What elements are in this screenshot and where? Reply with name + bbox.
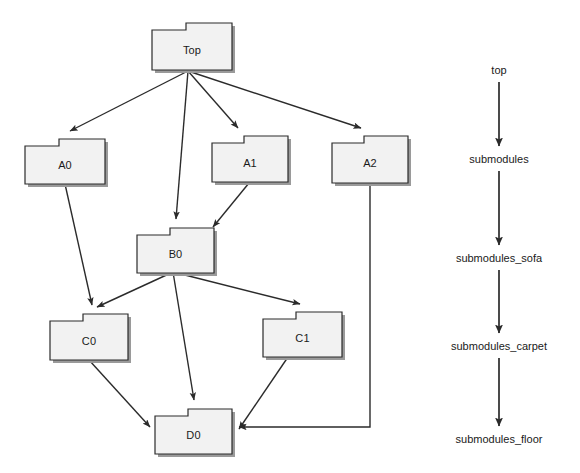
flow-step-label-flow-top: top bbox=[491, 64, 506, 77]
diagram-canvas: TopA0A1A2B0C0C1D0 topsubmodulessubmodule… bbox=[0, 0, 580, 473]
flow-step-label-flow-submodules-sofa: submodules_sofa bbox=[456, 252, 542, 265]
flow-step-label-flow-submodules-floor: submodules_floor bbox=[456, 433, 543, 446]
flow-step-label-flow-submodules-carpet: submodules_carpet bbox=[451, 340, 547, 353]
flow-step-label-flow-submodules: submodules bbox=[469, 153, 528, 166]
